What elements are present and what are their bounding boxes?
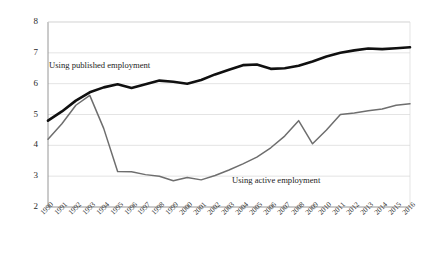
y-tick-label: 7 [22, 48, 38, 57]
y-tick-label: 2 [22, 202, 38, 211]
line-chart: 8765432 19901991199219931994199519961997… [0, 0, 426, 262]
y-tick-label: 5 [22, 110, 38, 119]
y-tick-label: 3 [22, 171, 38, 180]
series-label-published-employment: Using published employment [49, 61, 150, 70]
y-tick-label: 8 [22, 17, 38, 26]
chart-canvas [0, 0, 426, 262]
series-label-active-employment: Using active employment [232, 176, 320, 185]
series-line-active-employment [48, 95, 410, 180]
y-tick-label: 6 [22, 79, 38, 88]
y-tick-label: 4 [22, 140, 38, 149]
gridlines [48, 22, 410, 176]
